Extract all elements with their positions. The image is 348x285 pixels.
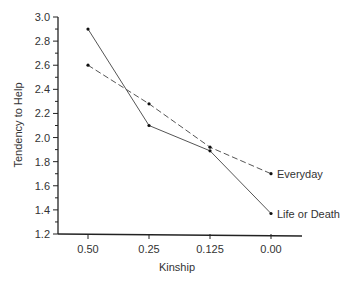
y-tick-label: 2.4 bbox=[35, 83, 50, 95]
y-axis-label: Tendency to Help bbox=[12, 83, 24, 168]
data-point bbox=[86, 64, 89, 67]
series-label: Life or Death bbox=[277, 208, 340, 220]
y-tick-label: 2.8 bbox=[35, 35, 50, 47]
data-point bbox=[208, 149, 211, 152]
y-tick-label: 1.6 bbox=[35, 180, 50, 192]
x-tick-label: 0.50 bbox=[77, 243, 98, 255]
x-axis-line bbox=[58, 234, 302, 236]
y-tick-label: 1.2 bbox=[35, 228, 50, 240]
data-point bbox=[147, 124, 150, 127]
series-label: Everyday bbox=[277, 168, 323, 180]
data-point bbox=[147, 102, 150, 105]
y-tick-label: 2.2 bbox=[35, 107, 50, 119]
y-tick-label: 3.0 bbox=[35, 11, 50, 23]
data-point bbox=[208, 146, 211, 149]
x-axis-label: Kinship bbox=[159, 261, 195, 273]
y-tick-label: 1.8 bbox=[35, 156, 50, 168]
series-labels: EverydayLife or Death bbox=[277, 168, 340, 220]
data-point bbox=[86, 27, 89, 30]
x-tick-label: 0.125 bbox=[196, 243, 224, 255]
y-tick-label: 1.4 bbox=[35, 204, 50, 216]
x-tick-label: 0.25 bbox=[138, 243, 159, 255]
line-chart: 1.21.41.61.82.02.22.42.62.83.00.500.250.… bbox=[0, 0, 348, 285]
series-line-everyday bbox=[88, 65, 271, 174]
series-line-life-or-death bbox=[88, 29, 271, 213]
y-tick-label: 2.0 bbox=[35, 132, 50, 144]
data-point bbox=[269, 172, 272, 175]
x-tick-label: 0.00 bbox=[260, 243, 281, 255]
series-lines bbox=[86, 27, 272, 215]
y-tick-label: 2.6 bbox=[35, 59, 50, 71]
data-point bbox=[269, 212, 272, 215]
